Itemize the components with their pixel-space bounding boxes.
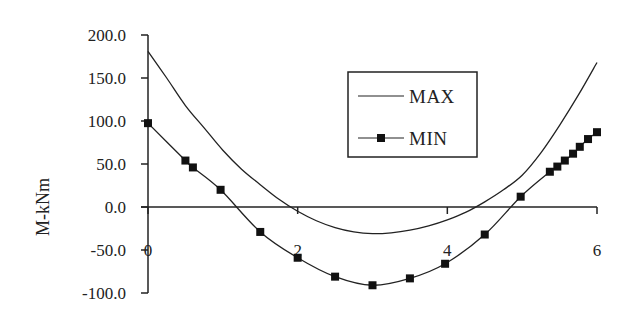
data-point-marker: [369, 281, 377, 289]
data-point-marker: [553, 163, 561, 171]
data-point-marker: [576, 143, 584, 151]
y-tick-label: -50.0: [91, 241, 126, 260]
legend: MAX MIN: [348, 72, 477, 157]
moment-chart: 200.0150.0100.050.00.0-50.0-100.0 0246 M…: [0, 0, 630, 314]
y-axis: 200.0150.0100.050.00.0-50.0-100.0: [82, 26, 148, 303]
x-tick-label: 0: [144, 241, 153, 260]
y-tick-label: 50.0: [96, 155, 126, 174]
y-tick-label: -100.0: [82, 284, 126, 303]
y-tick-label: 100.0: [88, 112, 126, 131]
y-axis-title: M-kNm: [33, 178, 53, 236]
data-point-marker: [144, 119, 152, 127]
y-tick-label: 0.0: [105, 198, 126, 217]
y-tick-label: 200.0: [88, 26, 126, 45]
data-point-marker: [406, 274, 414, 282]
x-tick-label: 4: [443, 241, 452, 260]
data-point-marker: [217, 186, 225, 194]
data-point-marker: [593, 128, 601, 136]
data-point-marker: [181, 157, 189, 165]
data-point-marker: [441, 260, 449, 268]
data-point-marker: [189, 163, 197, 171]
y-tick-label: 150.0: [88, 69, 126, 88]
data-point-marker: [584, 135, 592, 143]
x-tick-label: 6: [593, 241, 602, 260]
data-point-marker: [481, 231, 489, 239]
data-point-marker: [569, 150, 577, 158]
data-point-marker: [546, 168, 554, 176]
data-point-marker: [256, 228, 264, 236]
legend-min-label: MIN: [409, 128, 447, 149]
legend-max-label: MAX: [409, 86, 455, 107]
legend-min-marker-icon: [377, 134, 385, 142]
data-point-marker: [517, 193, 525, 201]
data-point-marker: [561, 157, 569, 165]
data-point-marker: [294, 254, 302, 262]
data-point-marker: [331, 273, 339, 281]
